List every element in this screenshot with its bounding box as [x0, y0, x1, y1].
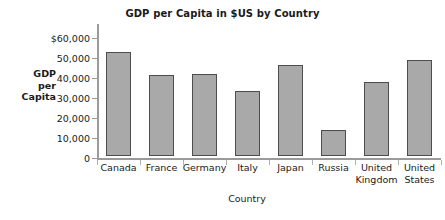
bar	[235, 91, 260, 156]
y-tick-mark	[92, 38, 97, 39]
bar	[364, 82, 389, 156]
y-axis-title-line-3: Capita	[8, 91, 56, 103]
bar	[149, 75, 174, 156]
y-tick-label: 20,000	[57, 113, 90, 124]
x-axis-title: Country	[97, 193, 397, 204]
bar	[106, 52, 131, 156]
bar	[321, 130, 346, 156]
bar	[192, 74, 217, 156]
y-tick-label: $60,000	[51, 33, 90, 44]
y-tick-mark	[92, 98, 97, 99]
x-category-label: United States	[392, 162, 445, 185]
y-tick-label: 10,000	[57, 133, 90, 144]
bar-chart-figure: GDP per Capita in $US by Country GDP per…	[0, 0, 445, 220]
y-tick-mark	[92, 158, 97, 159]
y-axis-title-line-2: per	[8, 80, 56, 92]
chart-title: GDP per Capita in $US by Country	[0, 8, 445, 19]
y-tick-label: 0	[84, 153, 90, 164]
y-tick-mark	[92, 138, 97, 139]
y-tick-mark	[92, 78, 97, 79]
y-tick-label: 30,000	[57, 93, 90, 104]
bar	[407, 60, 432, 156]
y-tick-mark	[92, 58, 97, 59]
bar	[278, 65, 303, 156]
y-tick-label: 40,000	[57, 73, 90, 84]
y-axis-title-line-1: GDP	[8, 68, 56, 80]
y-tick-mark	[92, 118, 97, 119]
y-axis-line	[97, 24, 99, 158]
y-axis-title: GDP per Capita	[8, 68, 56, 103]
plot-area: $60,00050,00040,00030,00020,00010,0000	[97, 24, 441, 158]
y-tick-label: 50,000	[57, 53, 90, 64]
